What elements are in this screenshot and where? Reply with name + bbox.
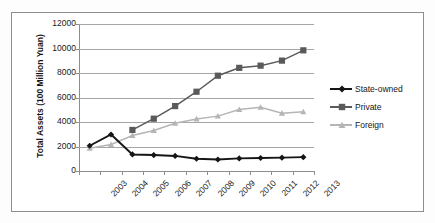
y-tick-label: 0 [16,165,76,175]
data-point-marker [193,89,199,95]
y-tick-label: 6000 [16,92,76,102]
x-tick-label: 2013 [322,178,342,198]
chart-figure: Total Assets (100 Million Yuan) 02000400… [0,0,435,223]
legend-label: Foreign [352,120,384,130]
data-point-marker [129,127,135,133]
x-tick-mark [186,171,187,175]
data-point-marker [193,156,199,162]
x-tick-mark [293,171,294,175]
legend-marker-icon [330,83,352,95]
data-point-marker [215,73,221,79]
data-point-marker [257,155,263,161]
series-state-owned [87,131,307,162]
data-point-marker [172,153,178,159]
series-layer [79,24,314,171]
series-foreign [87,104,307,151]
data-point-marker [172,103,178,109]
x-tick-label: 2012 [300,178,320,198]
x-tick-mark [122,171,123,175]
x-tick-label: 2006 [172,178,192,198]
x-tick-label: 2011 [279,178,299,198]
legend-label: State-owned [352,84,403,94]
chart-legend: State-ownedPrivateForeign [330,80,420,134]
x-tick-mark [164,171,165,175]
data-point-marker [300,154,306,160]
legend-item-state-owned[interactable]: State-owned [330,80,420,98]
x-tick-mark [207,171,208,175]
x-tick-label: 2007 [194,178,214,198]
data-point-marker [279,58,285,64]
y-tick-label: 8000 [16,67,76,77]
x-tick-label: 2005 [151,178,171,198]
data-point-marker [236,65,242,71]
data-point-marker [151,152,157,158]
plot-area: 020004000600080001000012000 200320042005… [79,24,314,171]
x-tick-label: 2004 [130,178,150,198]
data-point-marker [279,155,285,161]
x-tick-label: 2009 [236,178,256,198]
data-point-marker [300,47,306,53]
legend-marker-icon [330,101,352,113]
legend-item-private[interactable]: Private [330,98,420,116]
y-tick-label: 4000 [16,116,76,126]
data-point-marker [236,155,242,161]
data-point-marker [215,156,221,162]
series-private [129,47,306,133]
y-tick-label: 12000 [16,18,76,28]
data-point-marker [151,116,157,122]
y-tick-label: 2000 [16,141,76,151]
legend-item-foreign[interactable]: Foreign [330,116,420,134]
legend-label: Private [352,102,381,112]
y-tick-label: 10000 [16,43,76,53]
series-line [90,107,304,148]
x-tick-label: 2008 [215,178,235,198]
x-tick-mark [143,171,144,175]
x-tick-mark [250,171,251,175]
legend-marker-icon [330,119,352,131]
x-tick-label: 2003 [108,178,128,198]
x-axis-line [79,171,315,172]
x-tick-label: 2010 [258,178,278,198]
x-tick-mark [229,171,230,175]
data-point-marker [257,63,263,69]
x-tick-mark [79,171,80,175]
x-tick-mark [314,171,315,175]
x-tick-mark [271,171,272,175]
x-tick-mark [100,171,101,175]
